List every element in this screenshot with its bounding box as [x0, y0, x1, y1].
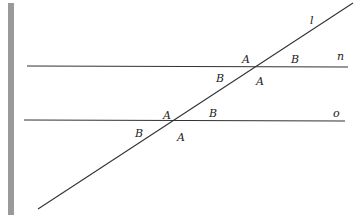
angle-label-b-1: B — [290, 53, 299, 66]
line-label-o-2: o — [333, 107, 340, 120]
diagram-canvas: lno ABBAABBA — [0, 0, 354, 219]
angle-label-b-5: B — [208, 107, 217, 120]
line-label-n-1: n — [337, 50, 344, 63]
angle-label-b-6: B — [134, 127, 143, 140]
line-label-l-0: l — [310, 14, 314, 27]
angle-label-a-4: A — [162, 109, 171, 122]
angle-label-a-3: A — [255, 75, 264, 88]
parallel-line-n — [27, 66, 348, 67]
angle-label-a-0: A — [241, 53, 250, 66]
parallel-line-o — [24, 120, 345, 121]
angle-label-a-7: A — [176, 131, 185, 144]
diagram-svg: lno ABBAABBA — [0, 0, 354, 219]
angle-label-b-2: B — [215, 72, 224, 85]
transversal-line-l — [38, 3, 353, 209]
